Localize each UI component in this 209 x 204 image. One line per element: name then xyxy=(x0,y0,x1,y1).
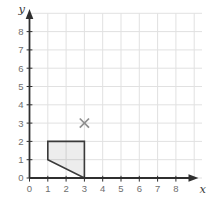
y-tick-label: 7 xyxy=(18,44,23,55)
y-tick-label: 5 xyxy=(18,81,23,92)
x-tick-label: 0 xyxy=(27,183,32,194)
y-axis-arrow-icon xyxy=(26,9,34,19)
x-tick-label: 4 xyxy=(100,183,105,194)
x-axis-arrow-icon xyxy=(189,174,199,182)
y-tick-label: 4 xyxy=(18,99,23,110)
y-tick-label: 6 xyxy=(18,63,23,74)
coordinate-plane-figure: 012345678012345678yx xyxy=(0,0,209,204)
x-tick-label: 2 xyxy=(63,183,68,194)
x-axis-label: x xyxy=(200,182,207,196)
x-tick-label: 5 xyxy=(118,183,123,194)
x-tick-label: 6 xyxy=(137,183,142,194)
x-tick-label: 1 xyxy=(45,183,50,194)
x-tick-label: 8 xyxy=(173,183,178,194)
y-tick-label: 0 xyxy=(18,172,23,183)
y-axis-label: y xyxy=(18,2,26,16)
y-tick-label: 1 xyxy=(18,154,23,165)
x-tick-label: 3 xyxy=(82,183,87,194)
x-tick-label: 7 xyxy=(155,183,160,194)
y-tick-label: 2 xyxy=(18,136,23,147)
plot-svg: 012345678012345678yx xyxy=(0,0,209,204)
y-tick-label: 8 xyxy=(18,26,23,37)
y-tick-label: 3 xyxy=(18,118,23,129)
